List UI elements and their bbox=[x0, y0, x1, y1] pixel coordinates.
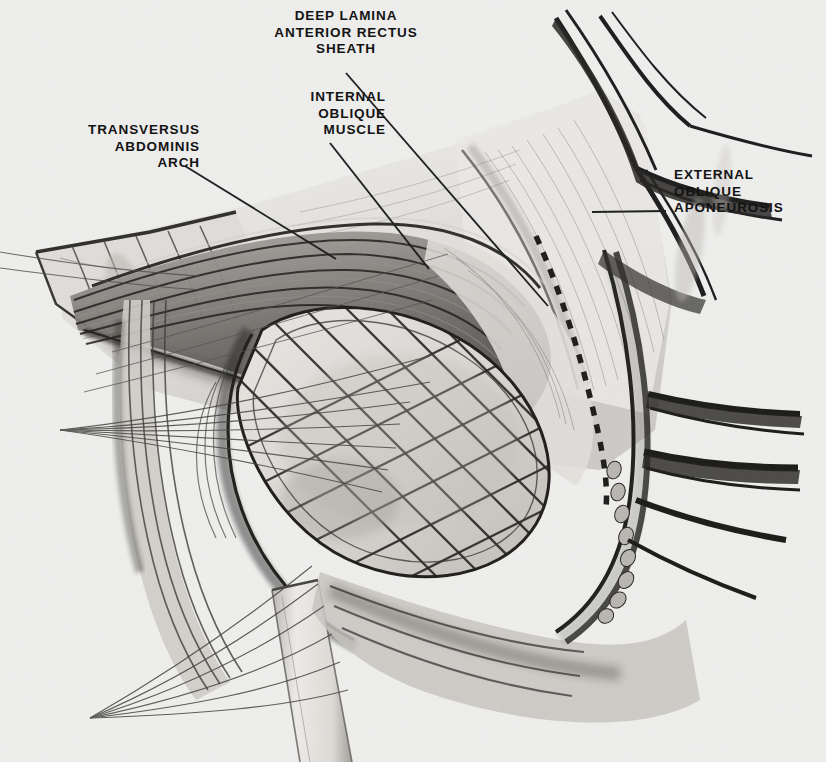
anatomical-figure: DEEP LAMINA ANTERIOR RECTUS SHEATH INTER… bbox=[0, 0, 826, 762]
illustration-canvas bbox=[0, 0, 826, 762]
